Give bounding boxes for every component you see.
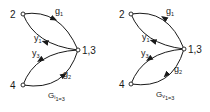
edge-label-g2: g2 [174,64,182,75]
node-1-3 [76,48,80,52]
node-4 [21,83,25,87]
node-label-1-3: 1,3 [82,45,96,56]
edge-label-g1: g1 [166,6,174,17]
node-4 [129,82,133,86]
edge-label-y1: y1 [142,32,150,43]
edge-label-y1: y1 [34,33,42,44]
edge-label-y3: y3 [32,48,40,59]
node-label-1-3: 1,3 [188,44,202,55]
edge-y1 [131,14,184,49]
edge-label-g2: g2 [63,69,71,80]
graph-left: 2 1,3 4 g1 y1 y3 g2 Gi1=3 [10,6,96,102]
edge-label-g1: g1 [55,6,63,17]
signal-flow-graphs: 2 1,3 4 g1 y1 y3 g2 Gi1=3 2 1,3 4 g1 y1 … [0,0,210,112]
node-label-4: 4 [119,79,125,90]
node-2 [129,12,133,16]
edge-label-y3: y3 [141,48,149,59]
caption-right: Gv1=3 [156,90,174,101]
node-label-2: 2 [119,9,125,20]
caption-left: Gi1=3 [48,91,65,102]
node-2 [21,12,25,16]
node-label-2: 2 [10,9,16,20]
node-label-4: 4 [10,80,16,91]
edge-g1 [131,13,184,49]
edge-g1 [23,13,78,50]
node-1-3 [182,47,186,51]
edge-y1 [23,14,78,50]
graph-right: 2 1,3 4 g1 y1 y3 g2 Gv1=3 [119,6,202,101]
